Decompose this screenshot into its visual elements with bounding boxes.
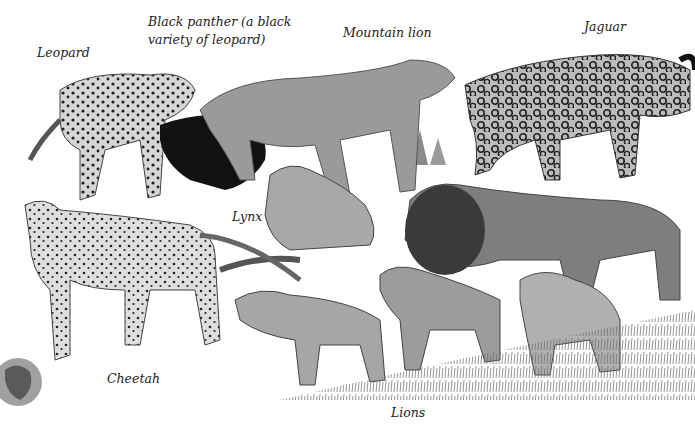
label-mountain-lion: Mountain lion (343, 24, 432, 42)
mountain-lion-figure (200, 60, 455, 195)
label-leopard: Leopard (37, 44, 90, 62)
illustration-artwork (0, 0, 695, 426)
label-black-panther-line2: variety of leopard) (148, 31, 265, 49)
label-jaguar: Jaguar (584, 18, 626, 36)
big-cats-illustration: Leopard Black panther (a black variety o… (0, 0, 695, 426)
label-lions: Lions (391, 404, 425, 422)
jaguar-figure (465, 55, 695, 180)
label-lynx: Lynx (232, 208, 262, 226)
label-cheetah: Cheetah (107, 370, 160, 388)
lynx-head-inset (0, 358, 42, 406)
label-black-panther-line1: Black panther (a black (148, 13, 291, 31)
